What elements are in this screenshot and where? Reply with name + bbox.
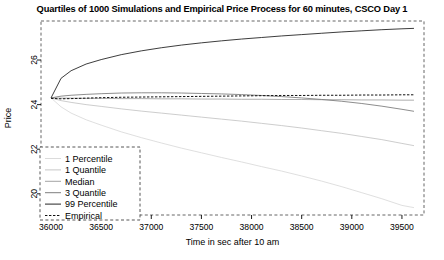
legend-label: 1 Percentile: [65, 154, 113, 164]
y-tick-label: 24: [29, 100, 39, 110]
x-tick-label: 39500: [390, 222, 414, 232]
y-tick-label: 26: [29, 55, 39, 65]
legend-label: 99 Percentile: [65, 199, 118, 209]
y-tick-label: 20: [29, 189, 39, 199]
legend-label: 3 Quantile: [65, 188, 106, 198]
legend-label: Median: [65, 177, 95, 187]
plot-canvas: 2022242636000365003700037500380003850039…: [0, 0, 444, 260]
series-line-1-quantile: [51, 98, 414, 146]
x-tick-label: 37500: [189, 222, 213, 232]
x-tick-label: 37000: [139, 222, 163, 232]
x-tick-label: 38000: [240, 222, 264, 232]
series-line-99-percentile: [51, 28, 414, 98]
x-tick-label: 38500: [290, 222, 314, 232]
x-tick-label: 36500: [89, 222, 113, 232]
x-tick-label: 36000: [39, 222, 63, 232]
legend-label: Empirical: [65, 211, 102, 221]
x-tick-label: 39000: [340, 222, 364, 232]
series-line-median: [51, 98, 414, 100]
chart-figure: Quartiles of 1000 Simulations and Empiri…: [0, 0, 444, 260]
y-axis-label: Price: [3, 108, 13, 129]
y-tick-label: 22: [29, 144, 39, 154]
legend-label: 1 Quantile: [65, 165, 106, 175]
x-axis-label: Time in sec after 10 am: [186, 237, 280, 247]
